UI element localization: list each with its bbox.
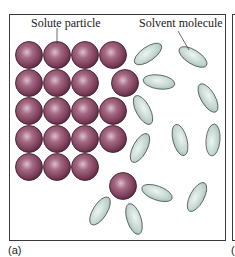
solute-particle bbox=[72, 154, 99, 181]
solute-particle bbox=[16, 42, 43, 69]
solute-particle bbox=[112, 70, 139, 97]
solute-particle bbox=[72, 70, 99, 97]
solute-particle bbox=[44, 126, 71, 153]
solute-particle bbox=[16, 70, 43, 97]
solvent-molecule bbox=[86, 194, 115, 229]
solute-particle bbox=[72, 42, 99, 69]
solvent-molecule bbox=[183, 180, 210, 215]
solvent-molecule bbox=[142, 73, 176, 91]
next-panel-label: ( bbox=[231, 244, 235, 256]
solute-particle bbox=[44, 42, 71, 69]
solute-particle bbox=[16, 126, 43, 153]
solute-particle bbox=[16, 98, 43, 125]
solvent-molecule-label: Solvent molecule bbox=[139, 16, 223, 31]
solute-particle bbox=[44, 154, 71, 181]
solute-particle bbox=[100, 98, 127, 125]
solvent-molecule bbox=[122, 202, 145, 237]
solute-particle bbox=[100, 126, 127, 153]
solute-particle bbox=[100, 42, 127, 69]
solute-particle bbox=[72, 126, 99, 153]
solvent-molecule bbox=[129, 93, 156, 128]
solution-diagram bbox=[0, 0, 235, 257]
solute-particle bbox=[72, 98, 99, 125]
solvent-molecule bbox=[176, 43, 211, 72]
solvent-molecule bbox=[140, 181, 175, 205]
solute-particle bbox=[44, 70, 71, 97]
solute-particles bbox=[16, 42, 139, 200]
solvent-molecule bbox=[194, 81, 222, 116]
solute-particle-label: Solute particle bbox=[31, 16, 101, 31]
solvent-molecule bbox=[169, 123, 191, 158]
solute-particle bbox=[110, 173, 137, 200]
solvent-molecule bbox=[205, 123, 222, 156]
solvent-molecule bbox=[126, 131, 153, 166]
solute-particle bbox=[44, 98, 71, 125]
solute-particle bbox=[16, 154, 43, 181]
solvent-molecule bbox=[131, 39, 165, 69]
panel-label: (a) bbox=[8, 244, 21, 256]
